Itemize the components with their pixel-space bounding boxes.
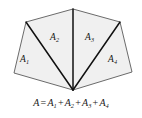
formula-term-1: A1	[47, 97, 56, 108]
area-sum-formula: A=A1+A2+A3+A4	[0, 97, 142, 108]
formula-term-3: A3	[82, 97, 91, 108]
formula-plus-1: +	[57, 97, 65, 108]
region-label-a4: A4	[108, 55, 117, 65]
region-label-a2: A2	[50, 33, 59, 43]
formula-term-4: A4	[99, 97, 108, 108]
region-label-a1: A1	[20, 55, 29, 65]
figure-container: A1 A2 A3 A4 A=A1+A2+A3+A4	[0, 0, 142, 118]
formula-term-2: A2	[65, 97, 74, 108]
formula-plus-2: +	[74, 97, 82, 108]
polygon-diagram	[0, 0, 142, 95]
region-label-a3: A3	[85, 33, 94, 43]
